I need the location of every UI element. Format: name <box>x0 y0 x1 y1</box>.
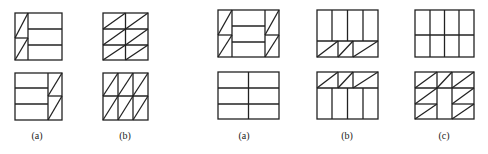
caption-right-b: (b) <box>341 130 353 141</box>
right-c-bottom-figure <box>415 72 474 119</box>
caption-right-c: (c) <box>438 130 449 141</box>
caption-left-a: (a) <box>31 130 42 141</box>
right-b-bottom-figure <box>317 72 378 119</box>
left-a-top-figure <box>15 13 62 60</box>
right-b-top-figure <box>317 10 378 57</box>
left-b-top-figure <box>103 13 148 60</box>
caption-right-a: (a) <box>238 130 249 141</box>
right-a-top-figure <box>218 10 279 57</box>
left-b-bottom-figure <box>103 73 148 120</box>
right-c-top-figure <box>415 10 474 57</box>
right-a-bottom-figure <box>218 72 279 119</box>
caption-left-b: (b) <box>119 130 131 141</box>
left-a-bottom-figure <box>15 73 62 120</box>
